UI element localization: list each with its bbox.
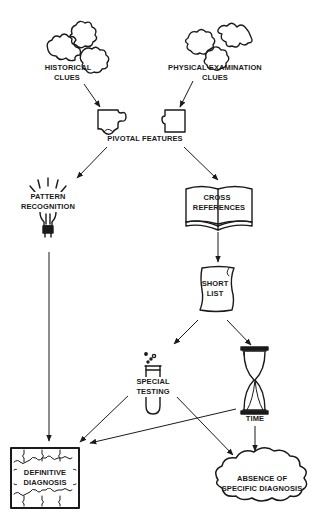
historical-label-line2: CLUES [39,73,95,83]
edge-short-to-time [227,320,251,345]
absence-diagnosis-label: ABSENCE OF SPECIFIC DIAGNOSIS [214,474,310,494]
time-label: TIME [240,414,270,424]
pivotal-features-label: PIVOTAL FEATURES [100,134,190,144]
special-label-line1: SPECIAL [128,377,178,387]
cross-references-label: CROSS REFERENCES [188,193,250,213]
short-label-line1: SHORT [196,279,234,289]
edge-pivotal-to-pattern [77,147,107,178]
absence-label-line2: SPECIFIC DIAGNOSIS [214,484,310,494]
definitive-label-line1: DEFINITIVE [17,468,73,478]
edge-short-to-special [174,320,198,344]
edge-historical-to-pivotal [84,84,100,107]
pivotal-puzzle-pieces-icon [98,110,185,134]
historical-clues-label: HISTORICAL CLUES [41,63,95,83]
definitive-diagnosis-label: DEFINITIVE DIAGNOSIS [17,468,73,488]
edge-special-to-absence [174,394,233,455]
time-label-text: TIME [240,414,270,424]
pattern-recognition-label: PATTERN RECOGNITION [15,192,81,212]
edge-special-to-definitive [80,394,130,442]
pattern-label-line2: RECOGNITION [15,202,81,212]
edge-pivotal-to-cross [184,147,218,180]
cross-label-line1: CROSS [184,193,250,203]
short-list-label: SHORT LIST [196,279,234,299]
pattern-label-line1: PATTERN [15,192,81,202]
physical-label-line1: PHYSICAL EXAMINATION [160,63,270,73]
pivotal-label-text: PIVOTAL FEATURES [100,134,190,144]
short-label-line2: LIST [196,289,234,299]
absence-label-line1: ABSENCE OF [214,474,310,484]
special-testing-label: SPECIAL TESTING [128,377,178,397]
physical-label-line2: CLUES [160,73,270,83]
edge-time-to-definitive [90,409,236,443]
definitive-label-line2: DIAGNOSIS [17,478,73,488]
cross-label-line2: REFERENCES [188,203,250,213]
edge-physical-to-pivotal [180,81,193,107]
physical-exam-clues-label: PHYSICAL EXAMINATION CLUES [160,63,270,83]
special-label-line2: TESTING [128,387,178,397]
hourglass-icon [241,347,268,414]
historical-label-line1: HISTORICAL [41,63,95,73]
